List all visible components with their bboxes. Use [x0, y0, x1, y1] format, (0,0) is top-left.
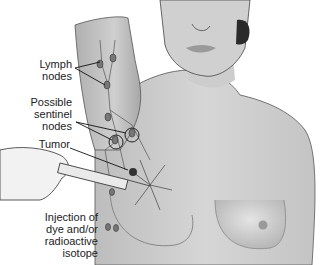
label-lymph-nodes: Lymph nodes	[30, 58, 72, 82]
label-injection: Injection of dye and/or radioactive isot…	[42, 211, 98, 259]
nipple	[259, 221, 268, 230]
label-sentinel-nodes: Possible sentinel nodes	[24, 96, 72, 132]
sentinel-node-diagram: Lymph nodes Possible sentinel nodes Tumo…	[0, 0, 323, 265]
hand	[0, 148, 69, 200]
label-tumor: Tumor	[28, 138, 70, 150]
tumor	[129, 168, 137, 176]
